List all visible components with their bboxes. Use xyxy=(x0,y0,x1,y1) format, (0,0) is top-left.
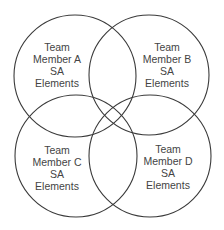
label-line: Elements xyxy=(22,180,92,192)
venn-diagram: Team Member A SA Elements Team Member B … xyxy=(0,0,224,230)
label-line: Member C xyxy=(22,156,92,168)
label-line: Member B xyxy=(132,53,202,65)
label-team-member-b: Team Member B SA Elements xyxy=(132,41,202,89)
label-line: SA xyxy=(132,65,202,77)
label-line: Team xyxy=(132,41,202,53)
label-line: Member D xyxy=(133,155,203,167)
label-line: Elements xyxy=(133,179,203,191)
label-line: Elements xyxy=(132,77,202,89)
label-line: Member A xyxy=(22,53,92,65)
label-line: SA xyxy=(22,168,92,180)
venn-circles xyxy=(0,0,224,230)
label-line: SA xyxy=(133,167,203,179)
label-line: SA xyxy=(22,65,92,77)
label-team-member-d: Team Member D SA Elements xyxy=(133,143,203,191)
label-line: Team xyxy=(133,143,203,155)
label-team-member-a: Team Member A SA Elements xyxy=(22,41,92,89)
label-line: Team xyxy=(22,144,92,156)
label-line: Team xyxy=(22,41,92,53)
label-line: Elements xyxy=(22,77,92,89)
label-team-member-c: Team Member C SA Elements xyxy=(22,144,92,192)
